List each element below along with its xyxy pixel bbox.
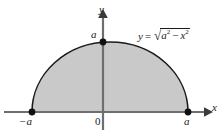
equation-annotation: y=√a2−x2: [138, 29, 190, 42]
term2-exponent: 2: [185, 28, 189, 36]
radicand: a2−x2: [160, 28, 190, 41]
semicircle-figure: y x a 0 −a a y=√a2−x2: [0, 0, 223, 135]
origin-label: 0: [95, 116, 101, 127]
point-apex-a: [100, 39, 107, 46]
shaded-region: [32, 42, 188, 112]
equation-minus: −: [170, 29, 180, 41]
tick-label-pos-a: a: [184, 116, 190, 127]
y-axis-label: y: [99, 4, 104, 15]
tick-label-neg-a: −a: [19, 116, 32, 127]
tick-label-top-a: a: [91, 29, 97, 40]
equation-equals: =: [143, 30, 153, 42]
x-axis-label: x: [212, 102, 217, 113]
radical-expression: √a2−x2: [153, 29, 190, 42]
